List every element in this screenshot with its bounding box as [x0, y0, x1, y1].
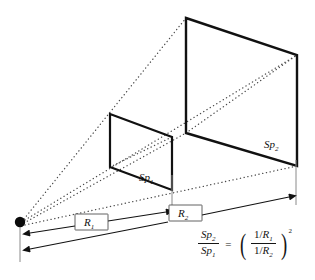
formula-lhs: Sp2 Sp1 [198, 228, 219, 259]
ray-bottom-right [25, 166, 297, 225]
source-point [15, 217, 25, 227]
formula-paren-open: ( [240, 230, 246, 257]
dimension-r1-line-left [30, 226, 75, 233]
ray-top-right [25, 55, 297, 220]
formula-rhs: 1/R1 1/R2 [251, 228, 276, 259]
ray-bottom-left [24, 133, 186, 223]
label-sp2: Sp2 [264, 138, 279, 153]
dimension-r1-line-right [108, 212, 166, 221]
projection-rays [24, 18, 297, 225]
label-r2: R2 [169, 205, 202, 222]
formula-exponent: 2 [289, 227, 293, 235]
formula-lhs-denominator: Sp1 [198, 244, 219, 259]
formula-paren-close: ) [280, 230, 286, 257]
label-sp1: Sp1 [139, 171, 154, 186]
label-r1: R1 [75, 214, 108, 231]
figure-canvas: R1 R2 Sp1 Sp2 Sp2 Sp1 = ( 1/R1 [0, 0, 315, 280]
formula-equals: = [221, 238, 235, 250]
formula-lhs-numerator: Sp2 [198, 228, 219, 244]
diagonal-plane2 [186, 55, 297, 133]
plane-sp2 [186, 18, 297, 166]
formula-rhs-denominator: 1/R2 [251, 244, 276, 259]
formula-inverse-square: Sp2 Sp1 = ( 1/R1 1/R2 )2 [198, 228, 292, 259]
formula-rhs-numerator: 1/R1 [251, 228, 276, 244]
ray-top-left [24, 18, 186, 219]
dimension-r2-line-right [202, 197, 289, 215]
